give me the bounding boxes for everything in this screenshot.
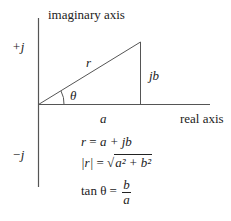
eq2-radicand: a² + b² [114, 154, 152, 170]
eq3-numerator: b [122, 178, 131, 193]
eq3-fraction: b a [122, 178, 131, 206]
opposite-jb-label: jb [149, 69, 159, 82]
equation-tangent: tan θ = b a [81, 178, 131, 206]
negative-j-label: −j [12, 148, 24, 161]
hypotenuse-r-line [39, 42, 141, 105]
hypotenuse-r-label: r [86, 56, 91, 69]
angle-theta-arc [61, 91, 64, 105]
equation-magnitude: |r| = √a² + b² [81, 156, 152, 169]
equation-r-definition: r = a + jb [81, 135, 132, 148]
imaginary-axis-label: imaginary axis [48, 8, 125, 21]
eq1-rhs: a + jb [100, 134, 132, 149]
real-axis-label: real axis [180, 112, 224, 125]
eq2-lhs: |r| [81, 155, 93, 170]
angle-theta-label: θ [70, 89, 76, 102]
eq3-denominator: a [122, 193, 131, 207]
eq3-lhs: tan θ [81, 183, 106, 198]
eq1-lhs: r [81, 134, 86, 149]
adjacent-a-label: a [100, 112, 107, 125]
positive-j-label: +j [12, 40, 24, 53]
